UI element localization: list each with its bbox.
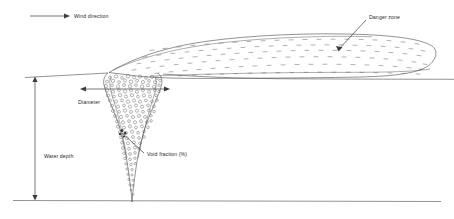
bubble-cloud bbox=[104, 74, 161, 195]
danger-zone-foam-texture bbox=[132, 39, 427, 76]
danger-zone-leader-line bbox=[336, 20, 366, 52]
bubble-plume-outline bbox=[104, 73, 162, 202]
diameter-label: Diameter bbox=[78, 99, 100, 105]
diagram-canvas: Wind direction Danger zone Diameter Void… bbox=[0, 0, 454, 219]
wind-direction-arrow bbox=[30, 13, 70, 18]
danger-zone-crest-line bbox=[113, 36, 372, 70]
wind-direction-label: Wind direction bbox=[74, 13, 109, 19]
plume-diagram-svg: Wind direction Danger zone Diameter Void… bbox=[0, 0, 454, 219]
water-depth-label: Water depth bbox=[44, 153, 73, 159]
seabed-line bbox=[13, 201, 441, 202]
water-surface-line-left bbox=[25, 73, 108, 78]
danger-zone-label: Danger zone bbox=[369, 14, 400, 20]
void-fraction-label: Void fraction (%) bbox=[147, 151, 187, 157]
water-depth-arrow bbox=[32, 77, 37, 201]
